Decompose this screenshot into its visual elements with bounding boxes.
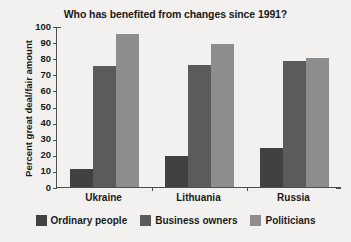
bar (260, 148, 283, 187)
legend-label: Business owners (155, 215, 237, 226)
bar (211, 44, 234, 187)
legend-label: Politicians (265, 215, 315, 226)
y-axis-tick-label: 50 (40, 101, 51, 113)
y-axis-tick-label: 10 (40, 165, 51, 177)
y-axis-tick-label: 100 (35, 21, 51, 33)
x-axis-end-tick (336, 188, 341, 189)
x-axis-category-label: Russia (246, 192, 341, 203)
plot-area: 0102030405060708090100 (56, 27, 341, 188)
y-axis-tick-mark (53, 124, 57, 125)
chart-title: Who has benefited from changes since 199… (0, 8, 351, 20)
x-axis-category-label: Lithuania (151, 192, 246, 203)
bar (165, 156, 188, 187)
bar-chart: Who has benefited from changes since 199… (0, 0, 351, 242)
y-axis-tick-mark (53, 188, 57, 189)
y-axis-tick-label: 90 (40, 37, 51, 49)
y-axis-tick-label: 20 (40, 149, 51, 161)
y-axis-tick-label: 0 (46, 182, 51, 194)
y-axis-tick-label: 70 (40, 69, 51, 81)
bar (306, 58, 329, 187)
legend-item: Politicians (250, 215, 315, 226)
y-axis-tick-mark (53, 91, 57, 92)
bar (116, 34, 139, 187)
y-axis-tick-label: 80 (40, 53, 51, 65)
y-axis-tick-mark (53, 172, 57, 173)
legend-swatch-icon (250, 215, 261, 226)
bar (283, 61, 306, 187)
y-axis-tick-label: 30 (40, 133, 51, 145)
legend-item: Business owners (140, 215, 237, 226)
x-axis-tick-mark (247, 187, 248, 191)
bar (70, 169, 93, 187)
y-axis-tick-mark (53, 108, 57, 109)
legend-item: Ordinary people (36, 215, 128, 226)
y-axis-tick-mark (53, 59, 57, 60)
chart-legend: Ordinary peopleBusiness ownersPolitician… (0, 215, 351, 226)
y-axis-tick-mark (53, 75, 57, 76)
bar (188, 65, 211, 187)
y-axis-tick-mark (53, 43, 57, 44)
x-axis-tick-mark (152, 187, 153, 191)
y-axis-tick-label: 40 (40, 117, 51, 129)
legend-swatch-icon (140, 215, 151, 226)
legend-label: Ordinary people (51, 215, 128, 226)
bar (93, 66, 116, 187)
legend-swatch-icon (36, 215, 47, 226)
y-axis-tick-mark (53, 27, 57, 28)
y-axis-tick-label: 60 (40, 85, 51, 97)
y-axis-tick-mark (53, 156, 57, 157)
y-axis-tick-mark (53, 140, 57, 141)
y-axis-title: Percent great deal/fair amount (23, 24, 34, 194)
x-axis-category-label: Ukraine (56, 192, 151, 203)
